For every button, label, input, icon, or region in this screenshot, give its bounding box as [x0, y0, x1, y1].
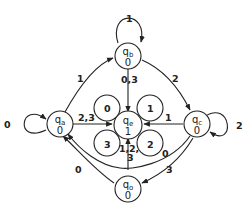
- state-qb-output: 0: [125, 57, 131, 68]
- state-qe: qe 1: [114, 111, 142, 139]
- state-diagram: qb 0 qa 0 qc 0 qe 1 qo 0 1 0 2 1 2 0,3 2…: [0, 0, 248, 219]
- label-qc-self: 2: [236, 120, 243, 131]
- state-qa: qa 0: [47, 111, 73, 137]
- label-qa-qe: 2,3: [78, 112, 95, 123]
- label-qo-qe-3: 3: [127, 152, 134, 163]
- label-qc-qe: 1: [165, 112, 172, 123]
- edge-qa-self: [24, 114, 46, 133]
- label-qe-loop1: 1: [147, 103, 154, 114]
- label-qe-loop0: 0: [104, 103, 111, 114]
- state-qa-output: 0: [57, 125, 63, 136]
- label-qc-qa: 0: [162, 148, 169, 159]
- label-qb-qc: 2: [172, 73, 179, 84]
- state-qo: qo 0: [115, 176, 141, 202]
- label-qa-self: 0: [4, 119, 11, 130]
- label-qb-self: 1: [126, 13, 133, 24]
- label-qa-qb: 1: [77, 73, 84, 84]
- label-qe-loop2: 2: [147, 139, 154, 150]
- state-qc-output: 0: [194, 125, 200, 136]
- state-qb: qb 0: [115, 43, 141, 69]
- label-qc-qo: 3: [166, 164, 173, 175]
- state-qe-output: 1: [125, 126, 131, 137]
- label-qe-loop3: 3: [104, 139, 111, 150]
- label-qo-qa: 0: [75, 164, 82, 175]
- state-qo-output: 0: [125, 190, 131, 201]
- state-qc: qc 0: [184, 111, 210, 137]
- label-qb-qe: 0,3: [121, 74, 138, 85]
